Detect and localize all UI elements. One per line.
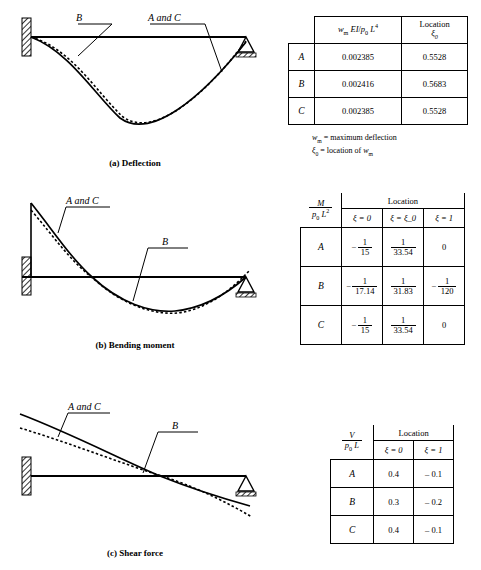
leader-line-b bbox=[143, 432, 198, 473]
quantity-fraction: M p0 L2 bbox=[309, 199, 332, 222]
row-case: B bbox=[289, 70, 315, 97]
curve-label-a-and-c: A and C bbox=[66, 195, 99, 206]
curve-a-and-c bbox=[31, 203, 246, 311]
note-line: wm = maximum deflection bbox=[312, 132, 397, 145]
cell-moment: −115 bbox=[341, 228, 382, 267]
row-case: A bbox=[331, 460, 374, 488]
table-row: A 0.002385 0.5528 bbox=[289, 43, 468, 70]
cell-moment: −115 bbox=[341, 306, 382, 345]
leader-line-b bbox=[133, 248, 188, 301]
table-header-row-top: M p0 L2 Location bbox=[301, 193, 465, 209]
cell-shear: – 0.1 bbox=[414, 460, 454, 488]
fixed-support-icon bbox=[22, 457, 31, 495]
cell-moment: 0 bbox=[424, 306, 465, 345]
header-shear-quantity: V p0 L bbox=[331, 425, 374, 460]
leader-line-a-and-c bbox=[58, 207, 110, 233]
header-deflection-value: wm EI/p0 L4 bbox=[314, 17, 401, 44]
header-deflection-location: Location ξ0 bbox=[402, 17, 468, 44]
table-row: B 0.002416 0.5683 bbox=[289, 70, 468, 97]
cell-shear: 0.3 bbox=[374, 488, 414, 516]
row-case: C bbox=[301, 306, 342, 345]
header-col-xi-1: ξ = 1 bbox=[414, 441, 454, 460]
cell-moment: 131.83 bbox=[383, 267, 424, 306]
shear-table: V p0 L Location ξ = 0 ξ = 1 A 0.4 – 0.1 … bbox=[330, 425, 454, 544]
caption-bending-moment: (b) Bending moment bbox=[0, 340, 270, 350]
curve-a-and-c bbox=[20, 414, 250, 506]
curve-label-a-and-c: A and C bbox=[148, 12, 181, 23]
bending-moment-diagram bbox=[0, 185, 270, 340]
leader-line-b bbox=[78, 24, 112, 56]
panel-shear-force: A and C B (c) Shear force V p0 L Locatio… bbox=[0, 375, 481, 570]
cell-moment: 133.54 bbox=[383, 228, 424, 267]
cell-value: 0.002385 bbox=[314, 97, 401, 124]
header-moment-quantity: M p0 L2 bbox=[301, 193, 342, 228]
cell-location: 0.5683 bbox=[402, 70, 468, 97]
cell-shear: – 0.2 bbox=[414, 488, 454, 516]
cell-moment: 133.54 bbox=[383, 306, 424, 345]
header-col-xi-1: ξ = 1 bbox=[424, 209, 465, 228]
note-line: ξ0 = location of wm bbox=[312, 145, 397, 158]
row-case: A bbox=[301, 228, 342, 267]
moment-table: M p0 L2 Location ξ = 0 ξ = ξ_0 ξ = 1 A −… bbox=[300, 193, 465, 345]
caption-shear-force: (c) Shear force bbox=[0, 548, 270, 558]
curve-b bbox=[20, 428, 252, 517]
table-header-row-top: V p0 L Location bbox=[331, 425, 454, 441]
deflection-diagram bbox=[0, 0, 270, 160]
row-case: A bbox=[289, 43, 315, 70]
cell-shear: 0.4 bbox=[374, 516, 414, 544]
corner-cell bbox=[289, 17, 315, 44]
cell-moment: −1120 bbox=[424, 267, 465, 306]
header-location: Location bbox=[341, 193, 464, 209]
cell-location: 0.5528 bbox=[402, 43, 468, 70]
row-case: B bbox=[331, 488, 374, 516]
header-location: Location bbox=[374, 425, 454, 441]
deflection-table-notes: wm = maximum deflection ξ0 = location of… bbox=[312, 132, 397, 158]
header-col-xi-0: ξ = 0 bbox=[374, 441, 414, 460]
panel-deflection: B A and C (a) Deflection wm EI/p0 L4 Loc… bbox=[0, 0, 481, 185]
table-row: C 0.4 – 0.1 bbox=[331, 516, 454, 544]
header-col-xi-0: ξ = 0 bbox=[341, 209, 382, 228]
panel-bending-moment: A and C B (b) Bending moment M p0 L2 Loc… bbox=[0, 185, 481, 375]
table-row: B 0.3 – 0.2 bbox=[331, 488, 454, 516]
curve-label-a-and-c: A and C bbox=[68, 401, 101, 412]
curve-label-b: B bbox=[172, 420, 178, 431]
row-case: B bbox=[301, 267, 342, 306]
roller-base-icon bbox=[236, 492, 256, 496]
leader-line-a-and-c bbox=[150, 24, 222, 72]
cell-shear: – 0.1 bbox=[414, 516, 454, 544]
table-header-row: wm EI/p0 L4 Location ξ0 bbox=[289, 17, 468, 44]
table-row: A −115 133.54 0 bbox=[301, 228, 465, 267]
fixed-support-icon bbox=[22, 18, 31, 56]
cell-location: 0.5528 bbox=[402, 97, 468, 124]
table-row: C −115 133.54 0 bbox=[301, 306, 465, 345]
roller-support-icon bbox=[238, 476, 254, 491]
roller-base-icon bbox=[236, 293, 256, 297]
cell-shear: 0.4 bbox=[374, 460, 414, 488]
shear-force-diagram bbox=[0, 375, 270, 550]
table-row: A 0.4 – 0.1 bbox=[331, 460, 454, 488]
cell-moment: −117.14 bbox=[341, 267, 382, 306]
curve-label-b: B bbox=[76, 12, 82, 23]
header-col-xi-xi0: ξ = ξ_0 bbox=[383, 209, 424, 228]
row-case: C bbox=[289, 97, 315, 124]
curve-label-b: B bbox=[162, 236, 168, 247]
cell-value: 0.002416 bbox=[314, 70, 401, 97]
row-case: C bbox=[331, 516, 374, 544]
table-row: B −117.14 131.83 −1120 bbox=[301, 267, 465, 306]
quantity-fraction: V p0 L bbox=[342, 431, 362, 452]
table-row: C 0.002385 0.5528 bbox=[289, 97, 468, 124]
roller-base-icon bbox=[236, 53, 256, 57]
cell-moment: 0 bbox=[424, 228, 465, 267]
cell-value: 0.002385 bbox=[314, 43, 401, 70]
deflection-table: wm EI/p0 L4 Location ξ0 A 0.002385 0.552… bbox=[288, 16, 468, 125]
caption-deflection: (a) Deflection bbox=[0, 158, 270, 168]
